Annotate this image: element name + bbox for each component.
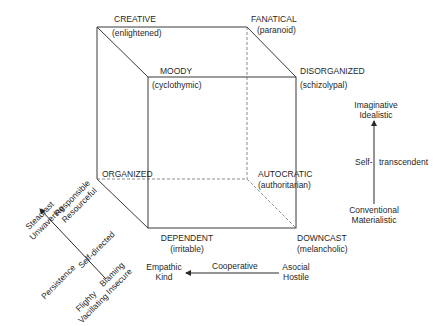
label-downcast-sub: (melancholic) bbox=[297, 244, 348, 255]
label-kind: Kind bbox=[140, 272, 188, 283]
label-moody: MOODY bbox=[160, 66, 192, 77]
label-dependent: DEPENDENT bbox=[150, 233, 224, 244]
label-cooperative: Cooperative bbox=[212, 261, 258, 272]
label-idealistic: Idealistic bbox=[344, 110, 408, 121]
label-disorganized-sub: (schizolypal) bbox=[300, 80, 347, 91]
edge-bottom-left-diagonal bbox=[97, 179, 148, 228]
label-self: Self- bbox=[355, 157, 372, 168]
label-fanatical-sub: (paranoid) bbox=[257, 25, 296, 36]
label-autocratic-sub: (authoritarian) bbox=[258, 180, 311, 191]
label-organized: ORGANIZED bbox=[102, 169, 153, 180]
label-creative-sub: (enlightened) bbox=[112, 28, 162, 39]
label-transcendent: transcendent bbox=[379, 157, 428, 168]
label-downcast: DOWNCAST bbox=[297, 233, 347, 244]
label-disorganized: DISORGANIZED bbox=[300, 66, 365, 77]
label-materialistic: Materialistic bbox=[338, 215, 410, 226]
label-dependent-sub: (irritable) bbox=[150, 244, 224, 255]
label-moody-sub: (cyclothymic) bbox=[152, 80, 202, 91]
label-hostile: Hostile bbox=[278, 272, 314, 283]
label-autocratic: AUTOCRATIC bbox=[258, 169, 312, 180]
label-fanatical: FANATICAL bbox=[251, 14, 297, 25]
label-creative: CREATIVE bbox=[114, 14, 156, 25]
